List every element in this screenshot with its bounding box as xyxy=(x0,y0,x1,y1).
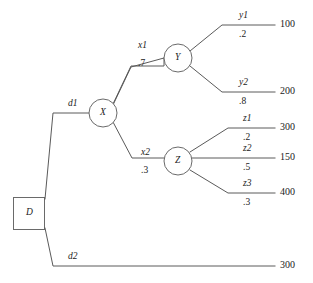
payoff-z2: 150 xyxy=(280,152,295,162)
payoff-y1: 100 xyxy=(280,19,295,29)
branch-prob-z3: .3 xyxy=(243,198,250,208)
branch-label-y2: y2 xyxy=(239,78,248,88)
branch-prob-y1: .2 xyxy=(239,30,246,40)
edge-x2 xyxy=(113,122,164,158)
branch-label-x1: x1 xyxy=(138,41,147,51)
decision-tree-diagram: D X Y Z d1 d2 x1 .7 x2 .3 y1 .2 100 y2 .… xyxy=(0,0,313,283)
branch-label-z1: z1 xyxy=(243,114,251,124)
edge-y2 xyxy=(190,66,275,92)
branch-prob-z1: .2 xyxy=(243,133,250,143)
branch-prob-x1: .7 xyxy=(138,59,145,69)
chance-node-y-label: Y xyxy=(175,53,180,63)
edge-y1 xyxy=(190,25,275,51)
branch-prob-z2: .5 xyxy=(243,163,250,173)
chance-node-z-label: Z xyxy=(175,156,180,166)
branch-prob-x2: .3 xyxy=(141,166,148,176)
edge-d2 xyxy=(45,228,275,266)
branch-label-d1: d1 xyxy=(68,99,78,109)
branch-label-x2: x2 xyxy=(141,148,150,158)
branch-label-d2: d2 xyxy=(68,252,78,262)
payoff-y2: 200 xyxy=(280,86,295,96)
edge-z1 xyxy=(190,128,275,152)
payoff-d2: 300 xyxy=(280,260,295,270)
edge-d1 xyxy=(45,113,89,199)
chance-node-x-label: X xyxy=(100,108,106,118)
decision-node-d-label: D xyxy=(26,208,33,218)
tree-svg-canvas xyxy=(0,0,313,283)
payoff-z3: 400 xyxy=(280,187,295,197)
payoff-z1: 300 xyxy=(280,122,295,132)
branch-label-z2: z2 xyxy=(243,144,251,154)
edge-z3 xyxy=(190,170,275,193)
branch-prob-y2: .8 xyxy=(239,97,246,107)
branch-label-y1: y1 xyxy=(239,11,248,21)
branch-label-z3: z3 xyxy=(243,179,251,189)
